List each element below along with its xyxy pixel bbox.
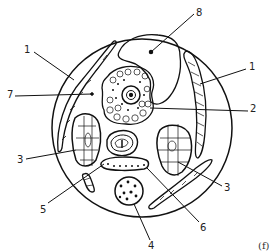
label-1-left: 1 (24, 45, 30, 55)
label-4: 4 (148, 241, 154, 251)
structure-5 (83, 173, 95, 192)
label-6: 6 (200, 223, 206, 233)
panel-label: (f) (258, 240, 270, 251)
label-7: 7 (7, 90, 13, 100)
lower-right-strand (149, 159, 212, 208)
label-3-left: 3 (17, 155, 23, 165)
label-1-right: 1 (249, 62, 255, 72)
label-8: 8 (196, 8, 202, 18)
label-2: 2 (250, 104, 256, 114)
structure-3-left (72, 114, 100, 166)
structure-1-right (184, 51, 206, 158)
label-3-right: 3 (224, 183, 230, 193)
label-5: 5 (40, 205, 46, 215)
